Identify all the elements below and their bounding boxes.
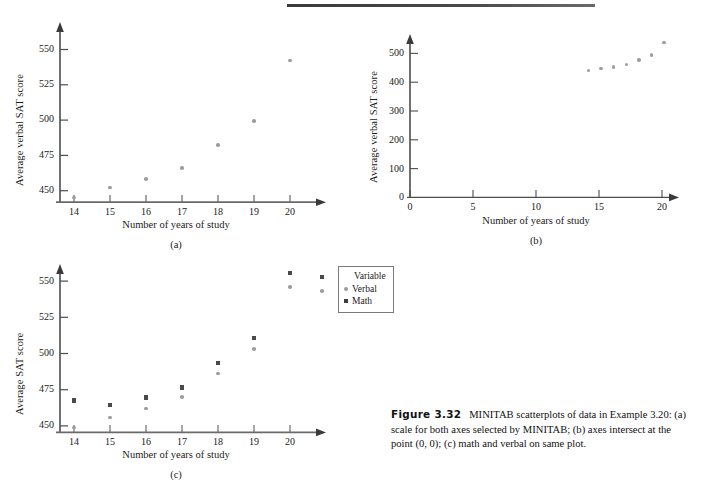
- panel-b-ytick-500: 500: [372, 47, 404, 58]
- figure-page: 550 525 500 475 450 14 15 16 17 18 19 20…: [0, 0, 703, 482]
- scatterplot-panel-c: 550 525 500 475 450 14 15 16 17 18 19 20…: [0, 258, 360, 482]
- data-point: [216, 361, 220, 365]
- data-point: [216, 143, 220, 147]
- panel-c-ytick-525: 525: [18, 311, 54, 322]
- panel-a-xtick-19: 19: [242, 206, 266, 217]
- panel-c-xtick-20: 20: [278, 436, 302, 447]
- panel-a-xtick-16: 16: [134, 206, 158, 217]
- panel-a-xtick-18: 18: [206, 206, 230, 217]
- data-point: [252, 119, 256, 123]
- panel-c-xtick-14: 14: [62, 436, 86, 447]
- data-point: [288, 285, 292, 289]
- data-point: [252, 336, 256, 340]
- panel-b-xtick-0: 0: [398, 201, 422, 212]
- panel-c-sublabel: (c): [60, 469, 292, 480]
- panel-a-xtick-14: 14: [62, 206, 86, 217]
- data-point: [612, 65, 615, 68]
- legend-label: Math: [352, 295, 372, 308]
- data-point: [180, 385, 184, 389]
- data-point: [72, 196, 76, 200]
- data-point: [252, 347, 256, 351]
- data-point: [108, 403, 112, 407]
- panel-b-y-axis-label: Average verbal SAT score: [368, 71, 379, 183]
- data-point: [72, 398, 76, 402]
- data-point: [637, 58, 640, 61]
- panel-c-xtick-18: 18: [206, 436, 230, 447]
- data-point: [108, 416, 112, 420]
- panel-a-xtick-17: 17: [170, 206, 194, 217]
- data-point: [144, 177, 148, 181]
- panel-b-xtick-10: 10: [524, 201, 548, 212]
- data-point: [288, 271, 292, 275]
- panel-b-sublabel: (b): [410, 235, 662, 246]
- panel-b-xtick-15: 15: [587, 201, 611, 212]
- legend-label: Verbal: [352, 283, 377, 296]
- legend-stray-circle-marker: [320, 289, 324, 293]
- panel-c-xtick-17: 17: [170, 436, 194, 447]
- panel-c-y-axis-label: Average SAT score: [14, 333, 25, 415]
- circle-marker-icon: [344, 287, 348, 291]
- panel-a-xtick-20: 20: [278, 206, 302, 217]
- scatterplot-panel-b: 500 400 300 200 100 0 0 5 10 15 20 Avera…: [362, 20, 703, 255]
- panel-a-x-axis-label: Number of years of study: [60, 219, 292, 230]
- data-point: [144, 395, 148, 399]
- square-marker-icon: [344, 299, 348, 303]
- panel-b-xtick-5: 5: [461, 201, 485, 212]
- data-point: [288, 59, 292, 63]
- panel-a-ytick-550: 550: [18, 43, 54, 54]
- data-point: [108, 186, 112, 190]
- panel-b-x-axis-label: Number of years of study: [410, 215, 662, 226]
- data-point: [72, 426, 76, 430]
- legend-stray-square-marker: [320, 275, 324, 279]
- legend-item-verbal[interactable]: Verbal: [344, 283, 386, 296]
- panel-b-xtick-20: 20: [650, 201, 674, 212]
- panel-c-ytick-450: 450: [18, 419, 54, 430]
- data-point: [180, 395, 184, 399]
- legend-title: Variable: [344, 270, 386, 283]
- scatterplot-panel-a: 550 525 500 475 450 14 15 16 17 18 19 20…: [0, 8, 350, 253]
- data-point: [599, 67, 602, 70]
- panel-a-sublabel: (a): [60, 239, 292, 250]
- data-point: [180, 166, 184, 170]
- panel-a-y-axis-label: Average verbal SAT score: [14, 74, 25, 186]
- data-point: [650, 53, 653, 56]
- figure-caption: Figure 3.32 MINITAB scatterplots of data…: [391, 407, 691, 452]
- figure-number: Figure 3.32: [391, 408, 461, 420]
- header-rule: [287, 4, 595, 7]
- panel-c-xtick-16: 16: [134, 436, 158, 447]
- panel-c-legend: Variable Verbal Math: [338, 266, 394, 313]
- panel-c-xtick-15: 15: [98, 436, 122, 447]
- panel-c-ytick-550: 550: [18, 275, 54, 286]
- panel-c-x-axis-label: Number of years of study: [60, 449, 292, 460]
- legend-item-math[interactable]: Math: [344, 295, 386, 308]
- panel-c-xtick-19: 19: [242, 436, 266, 447]
- panel-a-xtick-15: 15: [98, 206, 122, 217]
